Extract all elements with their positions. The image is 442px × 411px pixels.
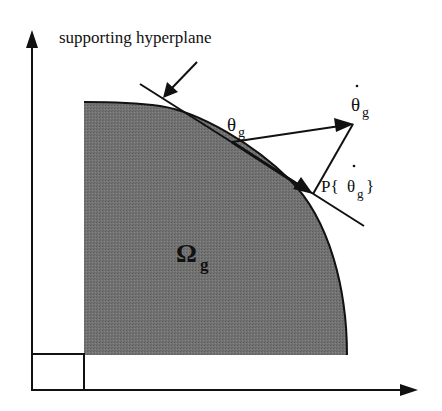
origin-box [32,354,84,390]
theta-subscript: g [238,125,245,140]
projection-theta-dot [353,165,356,168]
projection-suffix: } [366,177,374,196]
supporting-hyperplane-label: supporting hyperplane [59,28,212,47]
theta-dot-subscript: g [362,105,369,120]
region-subscript: g [200,255,209,274]
theta-dot-arrow-icon [334,118,354,132]
y-axis-arrow-icon [26,30,38,48]
feasible-region [84,102,347,355]
projection-subscript: g [357,186,364,201]
theta-dot-vector [232,126,340,142]
theta-label: θ [227,114,236,135]
theta-dot-label: θ [351,94,360,115]
projection-theta: θ [347,177,355,196]
hyperplane-pointer-line [172,62,197,88]
region-label: Ω [176,239,197,268]
projection-prefix: P{ [321,177,339,196]
constraint-projection-diagram: supporting hyperplane θ g θ g P{ θ g } Ω… [0,0,442,411]
theta-dot-dot [356,85,359,88]
diagram-svg: supporting hyperplane θ g θ g P{ θ g } Ω… [0,0,442,411]
x-axis-arrow-icon [400,384,418,396]
